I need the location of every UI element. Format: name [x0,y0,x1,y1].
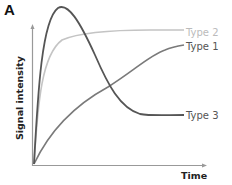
series-type-1-line [34,45,184,164]
chart-canvas: A Signal intensity Type 2 Type 1 Type 3 … [0,0,232,185]
label-type-1: Type 1 [185,41,219,52]
series-type-2-line [34,30,184,164]
y-axis-arrow-icon [31,24,35,29]
y-axis-label: Signal intensity [14,55,25,140]
x-axis-label: Time [181,170,207,181]
label-type-2: Type 2 [185,27,219,38]
x-axis-arrow-icon [202,164,207,168]
panel-letter: A [4,1,15,18]
label-type-3: Type 3 [185,110,219,121]
